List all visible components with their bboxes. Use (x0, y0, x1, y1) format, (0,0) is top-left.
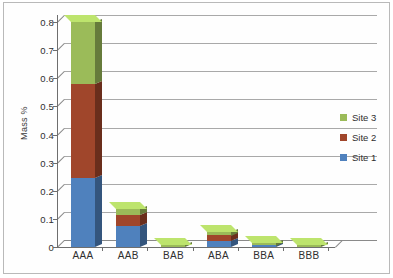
bar-top (245, 236, 283, 243)
axis-depth-edge (57, 184, 65, 192)
bar-top (64, 15, 102, 22)
legend-label: Site 1 (352, 152, 376, 163)
axis-depth-edge (57, 15, 65, 23)
gridline (64, 128, 377, 129)
bar-top (200, 225, 238, 232)
gridline (64, 99, 377, 100)
bar-segment-site-3 (252, 243, 276, 246)
gridline (64, 71, 377, 72)
bar-segment-site-1 (116, 226, 140, 247)
chart-legend: Site 3Site 2Site 1 (340, 112, 376, 172)
bar-face (116, 215, 140, 226)
legend-swatch-icon (340, 154, 347, 161)
y-axis-tick-label: 0.2 (20, 185, 54, 196)
y-axis-tick-label: 0.8 (20, 17, 54, 28)
bar-aaa (71, 22, 95, 247)
bar-face (207, 232, 231, 236)
bar-segment-site-3 (297, 245, 321, 247)
gridline (64, 212, 377, 213)
x-axis-tick-label: BBB (281, 250, 337, 261)
bar-side (95, 175, 102, 247)
bar-segment-site-1 (71, 178, 95, 247)
legend-item-site-2[interactable]: Site 2 (340, 132, 376, 143)
bar-top (290, 238, 328, 245)
axis-depth-edge (57, 71, 65, 79)
bar-bba (252, 243, 276, 248)
bar-segment-site-3 (116, 209, 140, 215)
axis-depth-edge (57, 128, 65, 136)
axis-depth-edge (57, 99, 65, 107)
bar-face (71, 22, 95, 84)
bar-top (109, 202, 147, 209)
floor-right-edge (335, 240, 343, 248)
legend-item-site-1[interactable]: Site 1 (340, 152, 376, 163)
legend-swatch-icon (340, 114, 347, 121)
y-axis-tick-label: 0.4 (20, 129, 54, 140)
bar-side (95, 81, 102, 178)
bar-side (95, 19, 102, 84)
bar-segment-site-2 (71, 84, 95, 178)
y-axis-tick-labels: 00.10.20.30.40.50.60.70.8 (18, 0, 54, 278)
bar-segment-site-1 (207, 241, 231, 247)
bar-top (154, 238, 192, 245)
y-axis-tick-label: 0.5 (20, 101, 54, 112)
axis-depth-edge (57, 43, 65, 51)
bar-face (252, 245, 276, 247)
bar-face (116, 209, 140, 215)
y-axis-line (57, 15, 58, 247)
gridline (64, 43, 377, 44)
y-axis-tick-label: 0.1 (20, 213, 54, 224)
bar-segment-site-2 (116, 215, 140, 226)
axis-depth-edge (57, 156, 65, 164)
bar-side (140, 223, 147, 247)
bar-face (161, 245, 185, 247)
bar-face (71, 84, 95, 178)
bar-segment-site-1 (252, 245, 276, 247)
bar-segment-site-3 (71, 22, 95, 84)
bar-segment-site-3 (207, 232, 231, 236)
y-axis-tick-label: 0.3 (20, 157, 54, 168)
bar-face (207, 235, 231, 241)
legend-label: Site 2 (352, 132, 376, 143)
bar-face (297, 245, 321, 247)
chart-plot-area: Mass % 00.10.20.30.40.50.60.70.8 AAAAABB… (0, 0, 393, 278)
bar-bab (161, 245, 185, 247)
gridline (64, 156, 377, 157)
gridline (64, 184, 377, 185)
y-axis-tick-label: 0.7 (20, 45, 54, 56)
y-axis-tick-label: 0.6 (20, 73, 54, 84)
x-axis-line (57, 247, 335, 248)
bar-segment-site-3 (161, 245, 185, 247)
legend-swatch-icon (340, 134, 347, 141)
gridline (64, 15, 377, 16)
bar-aba (207, 232, 231, 247)
bar-segment-site-2 (207, 235, 231, 241)
bar-face (116, 226, 140, 247)
legend-label: Site 3 (352, 112, 376, 123)
bar-bbb (297, 245, 321, 247)
bar-aab (116, 209, 140, 247)
legend-item-site-3[interactable]: Site 3 (340, 112, 376, 123)
bar-face (207, 241, 231, 247)
axis-depth-edge (57, 212, 65, 220)
y-axis-tick-label: 0 (20, 242, 54, 253)
bar-face (71, 178, 95, 247)
